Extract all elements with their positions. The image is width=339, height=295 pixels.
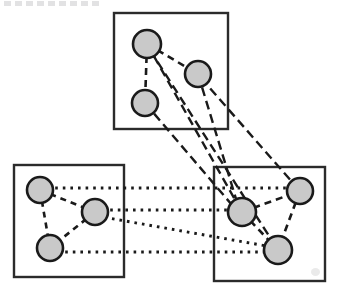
node-n7[interactable] — [228, 198, 256, 226]
node-n5[interactable] — [82, 199, 108, 225]
node-n8[interactable] — [287, 178, 313, 204]
node-n4[interactable] — [27, 177, 53, 203]
node-n9[interactable] — [264, 236, 292, 264]
node-n2[interactable] — [185, 61, 211, 87]
graph-figure — [0, 0, 339, 295]
node-n6[interactable] — [37, 235, 63, 261]
node-n1[interactable] — [133, 30, 161, 58]
graph-canvas — [0, 0, 339, 295]
node-n3[interactable] — [132, 90, 158, 116]
